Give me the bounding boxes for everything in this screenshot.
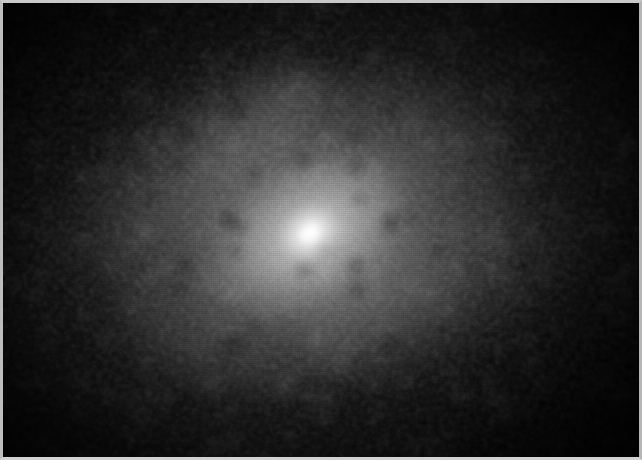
photographic-field bbox=[3, 3, 639, 457]
upper-left-extension bbox=[3, 19, 357, 317]
screenshot-root: Monochrome astronomical plate: diffuse n… bbox=[0, 0, 642, 460]
lower-right-extension bbox=[274, 159, 627, 418]
plate-border-frame bbox=[0, 0, 642, 460]
